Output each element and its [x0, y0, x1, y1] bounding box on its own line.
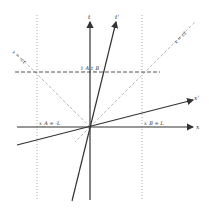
left-marker-label: x_A = -L — [39, 120, 61, 127]
x-axis-label: x — [196, 123, 200, 130]
t-a-label: t_A — [81, 65, 90, 72]
x-prime-axis-label: x' — [194, 94, 199, 101]
t-prime-axis — [72, 22, 116, 201]
spacetime-diagram: t t' x x' x = ct x = -ct x_A = -L x_B = … — [0, 0, 209, 212]
right-marker-label: x_B = L — [144, 120, 164, 127]
t-b-label: t_B — [91, 65, 100, 72]
t-axis-label: t — [88, 13, 91, 20]
t-prime-axis-label: t' — [115, 13, 119, 20]
light-line-negative — [20, 57, 90, 127]
